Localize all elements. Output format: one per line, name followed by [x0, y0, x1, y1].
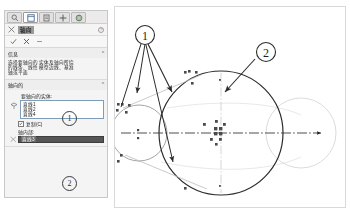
tree-icon [27, 14, 35, 22]
tab-configuration-manager[interactable] [39, 12, 54, 23]
info-message: 选择要轴向的实体及轴向所绕 的线条、线性模型边线、基准 轴或平面 [8, 60, 104, 76]
cad-drawing-svg: 1 2 [115, 7, 346, 208]
callout-1-leaders [121, 44, 173, 162]
callout-1-label: 1 [142, 29, 148, 43]
chevron-up-icon[interactable]: ^ [102, 51, 104, 56]
callout-1-badge: 1 [136, 26, 155, 45]
tab-dimxpert-manager[interactable] [55, 12, 70, 23]
cad-drawing-canvas[interactable]: 1 2 [114, 6, 346, 208]
svg-text:?: ? [100, 28, 102, 32]
config-icon [43, 14, 51, 22]
copy-checkbox[interactable] [18, 121, 24, 127]
tab-feature-manager[interactable] [23, 12, 38, 23]
about-axis-label: 轴内部: [18, 128, 104, 135]
cancel-button[interactable] [23, 38, 30, 45]
panel-title: 轴向 [18, 26, 34, 34]
entities-label: 要轴向的实体: [21, 92, 104, 99]
about-axis-value: 直线3 [21, 136, 36, 142]
info-section-body: 选择要轴向的实体及轴向所绕 的线条、线性模型边线、基准 轴或平面 [5, 58, 107, 79]
manager-tab-bar [5, 11, 107, 24]
screenshot-root: 1 2 [0, 0, 350, 213]
preview-tangent-lower [161, 157, 301, 169]
tangent-line-lower[interactable] [125, 155, 207, 189]
axis-reference-icon [8, 136, 18, 143]
tangent-line-upper[interactable] [123, 75, 201, 108]
tab-property-manager[interactable] [7, 12, 22, 23]
axis-section-title: 轴向的 [8, 81, 23, 88]
checkmark-icon [19, 122, 22, 125]
axis-icon [8, 26, 15, 33]
callout-2-panel-badge: 2 [62, 176, 77, 191]
magnifier-icon [11, 14, 19, 22]
chevron-up-icon-2[interactable]: ^ [102, 82, 104, 87]
axis-section-header[interactable]: 轴向的 ^ [5, 80, 107, 90]
help-icon[interactable]: ? [98, 27, 104, 33]
info-section-header[interactable]: 信息 ^ [5, 48, 107, 58]
callout-1-panel-badge: 1 [62, 111, 77, 126]
about-axis-row: 直线3 [8, 136, 104, 143]
about-axis-field[interactable]: 直线3 [18, 136, 104, 143]
info-line-3: 轴或平面 [8, 70, 104, 75]
info-section: 信息 ^ 选择要轴向的实体及轴向所绕 的线条、线性模型边线、基准 轴或平面 [5, 48, 107, 80]
axis-section: 轴向的 ^ 要轴向的实体: 直线1 直线2 直线4 [5, 80, 107, 147]
callout-2-badge: 2 [257, 43, 276, 62]
axis-section-body: 要轴向的实体: 直线1 直线2 直线4 [5, 90, 107, 146]
selection-face-icon [8, 100, 20, 110]
callout-2-leader [225, 59, 255, 92]
entities-selection-row: 直线1 直线2 直线4 [8, 100, 104, 119]
pin-button[interactable] [36, 38, 43, 45]
callout-2-label: 2 [263, 46, 269, 60]
tab-display-manager[interactable] [71, 12, 86, 23]
panel-action-bar [5, 36, 107, 48]
globe-icon [75, 14, 83, 22]
info-section-title: 信息 [8, 50, 18, 57]
panel-header: 轴向 ? [5, 24, 107, 36]
copy-checkbox-label: 复制(C) [26, 121, 42, 127]
copy-checkbox-row[interactable]: 复制(C) [18, 121, 104, 127]
accept-button[interactable] [10, 38, 17, 45]
move-icon [59, 14, 67, 22]
property-manager-panel: 轴向 ? 信息 ^ [4, 10, 108, 198]
